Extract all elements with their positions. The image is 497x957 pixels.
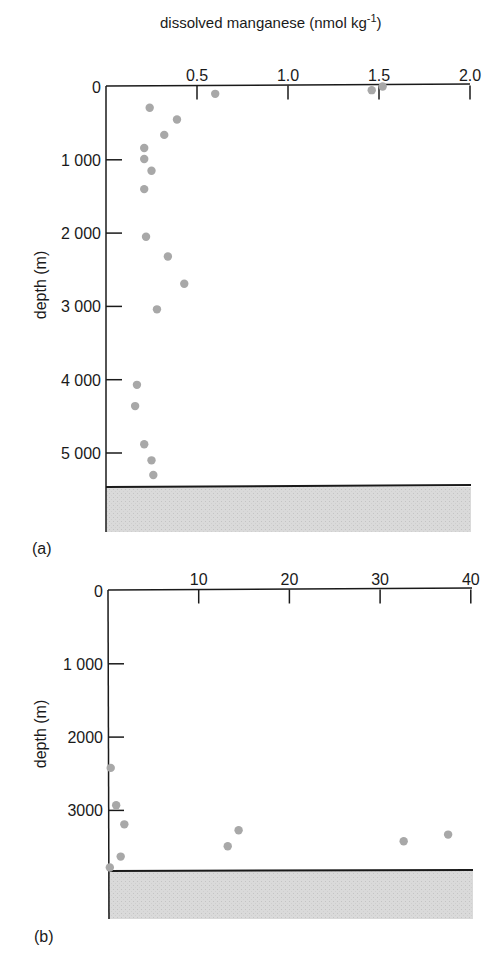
data-points-b [106,764,453,872]
data-point [116,852,124,860]
data-point [145,104,153,112]
panel-label-b: (b) [34,928,54,945]
data-point [133,381,141,389]
y-axis-label-a: depth (m) [32,251,49,319]
x-tick-label: 10 [190,571,208,588]
data-point [140,440,148,448]
data-point [107,764,115,772]
x-tick-label: 20 [281,571,299,588]
seafloor-a [106,487,471,532]
data-point [140,144,148,152]
data-point [234,826,242,834]
ticks-a: 0.51.01.52.001 0002 0003 0004 0005 000 [61,67,481,463]
data-point [444,830,452,838]
panel-label-a: (a) [32,540,52,557]
data-point [142,233,150,241]
y-tick-label: 2 000 [61,225,101,242]
seafloor-line-b [108,870,473,871]
y-tick-label: 1 000 [61,152,101,169]
chart-title: dissolved manganese (nmol kg-1) [160,12,382,31]
x-tick-label: 1.0 [277,67,299,84]
data-point [180,279,188,287]
panel-b: 1020304001 00020003000 depth (m) (b) [32,571,480,946]
y-axis-label-b: depth (m) [32,700,49,768]
data-point [399,837,407,845]
x-tick-label: 0.5 [186,67,208,84]
data-point [153,305,161,313]
x-tick-label: 1.5 [368,67,390,84]
seafloor-line-a [106,485,471,487]
seafloor-b [108,871,473,919]
data-point [147,456,155,464]
data-point [211,90,219,98]
data-points-a [131,82,387,479]
y-tick-label: 0 [92,79,101,96]
y-tick-label: 3000 [67,802,103,819]
data-point [173,115,181,123]
y-tick-label: 0 [94,583,103,600]
data-point [160,131,168,139]
y-tick-label: 1 000 [63,656,103,673]
y-tick-label: 3 000 [61,298,101,315]
data-point [140,155,148,163]
data-point [224,842,232,850]
data-point [120,820,128,828]
data-point [378,82,386,90]
data-point [140,185,148,193]
data-point [149,471,157,479]
data-point [131,402,139,410]
data-point [164,252,172,260]
data-point [368,86,376,94]
x-tick-label: 2.0 [459,67,481,84]
data-point [112,801,120,809]
y-tick-label: 4 000 [61,372,101,389]
manganese-depth-figure: dissolved manganese (nmol kg-1) 0.51.01.… [0,0,497,957]
x-tick-label: 40 [462,571,480,588]
y-tick-label: 5 000 [61,445,101,462]
panel-a: 0.51.01.52.001 0002 0003 0004 0005 000 d… [32,67,481,558]
y-tick-label: 2000 [67,729,103,746]
ticks-b: 1020304001 00020003000 [63,571,480,820]
data-point [147,167,155,175]
data-point [106,863,114,871]
x-tick-label: 30 [371,571,389,588]
